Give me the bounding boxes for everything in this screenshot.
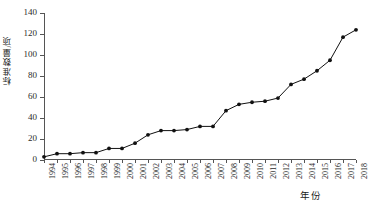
x-axis-tick-label: 2013 [295, 163, 304, 179]
x-axis-tick [96, 160, 97, 163]
y-axis-tick-label: 0 [33, 154, 38, 165]
x-axis-tick [44, 160, 45, 163]
data-point [107, 147, 111, 151]
x-axis-tick [109, 160, 110, 163]
x-axis-tick-label: 2000 [126, 163, 135, 179]
data-point [211, 125, 215, 129]
x-axis-tick [330, 160, 331, 163]
x-axis-tick [356, 160, 357, 163]
x-axis-tick [148, 160, 149, 163]
plot-area: 020406080100120140 199419951996199719981… [44, 13, 356, 160]
x-axis-tick [343, 160, 344, 163]
data-point [146, 133, 150, 137]
y-axis-tick-label: 40 [28, 112, 37, 123]
x-axis-tick-label: 2005 [191, 163, 200, 179]
data-point [120, 147, 124, 151]
x-axis-title: 年份 [300, 188, 322, 202]
x-axis-tick [135, 160, 136, 163]
x-axis-tick [200, 160, 201, 163]
x-axis-tick-label: 1996 [74, 163, 83, 179]
data-point [328, 58, 332, 62]
x-axis-tick-label: 1999 [113, 163, 122, 179]
data-point [289, 83, 293, 87]
x-axis-tick [213, 160, 214, 163]
x-axis-tick-label: 2012 [282, 163, 291, 179]
x-axis-tick-label: 2009 [243, 163, 252, 179]
data-point [354, 28, 358, 32]
x-axis-tick-label: 2004 [178, 163, 187, 179]
data-point [302, 77, 306, 81]
data-point [94, 151, 98, 155]
x-axis-tick-label: 2016 [334, 163, 343, 179]
x-axis-tick-label: 2001 [139, 163, 148, 179]
x-axis-tick-label: 1998 [100, 163, 109, 179]
x-axis-tick [291, 160, 292, 163]
x-axis-tick [317, 160, 318, 163]
data-point [276, 96, 280, 100]
data-point [263, 99, 267, 103]
x-axis-tick-label: 2014 [308, 163, 317, 179]
chart-container: 标准数量/项 020406080100120140 19941995199619… [0, 0, 371, 209]
data-point [55, 152, 59, 156]
x-axis-tick [161, 160, 162, 163]
data-point [81, 151, 85, 155]
x-axis-tick-label: 1994 [48, 163, 57, 179]
y-axis-tick-label: 120 [24, 28, 38, 39]
data-point [133, 141, 137, 145]
x-axis-tick [187, 160, 188, 163]
x-axis-tick [239, 160, 240, 163]
y-axis-tick-label: 20 [28, 133, 37, 144]
data-point [250, 100, 254, 104]
data-point [198, 125, 202, 129]
y-axis-tick-label: 60 [28, 91, 37, 102]
x-axis-tick [265, 160, 266, 163]
x-axis-tick [226, 160, 227, 163]
data-point [315, 69, 319, 73]
series-standards-count [44, 13, 356, 160]
x-axis-tick-label: 1997 [87, 163, 96, 179]
x-axis-tick [122, 160, 123, 163]
x-axis-tick-label: 2010 [256, 163, 265, 179]
x-axis-tick [174, 160, 175, 163]
x-axis-tick [83, 160, 84, 163]
series-markers [42, 28, 358, 159]
data-point [185, 128, 189, 132]
y-axis-tick-label: 80 [28, 70, 37, 81]
x-axis-tick [278, 160, 279, 163]
data-point [224, 109, 228, 113]
y-axis-title-text: 标准数量/项 [4, 35, 13, 85]
data-point [68, 152, 72, 156]
x-axis-tick [70, 160, 71, 163]
data-point [237, 102, 241, 106]
x-axis-tick-label: 2008 [230, 163, 239, 179]
x-axis-tick-label: 2003 [165, 163, 174, 179]
y-axis-title: 标准数量/项 [0, 0, 16, 120]
data-point [172, 129, 176, 133]
x-axis-tick-label: 2007 [217, 163, 226, 179]
x-axis-tick [57, 160, 58, 163]
x-axis-tick [304, 160, 305, 163]
x-axis-tick-label: 2017 [347, 163, 356, 179]
y-axis-tick-label: 140 [24, 7, 38, 18]
x-axis-tick [252, 160, 253, 163]
data-point [341, 35, 345, 39]
data-point [42, 155, 46, 159]
x-axis-tick-label: 1995 [61, 163, 70, 179]
data-point [159, 129, 163, 133]
x-axis-tick-label: 2011 [269, 163, 278, 179]
x-axis-tick-label: 2002 [152, 163, 161, 179]
x-axis-tick-label: 2006 [204, 163, 213, 179]
y-axis-tick-label: 100 [24, 49, 38, 60]
x-axis-tick-label: 2018 [360, 163, 369, 179]
series-line [44, 30, 356, 157]
x-axis-tick-label: 2015 [321, 163, 330, 179]
